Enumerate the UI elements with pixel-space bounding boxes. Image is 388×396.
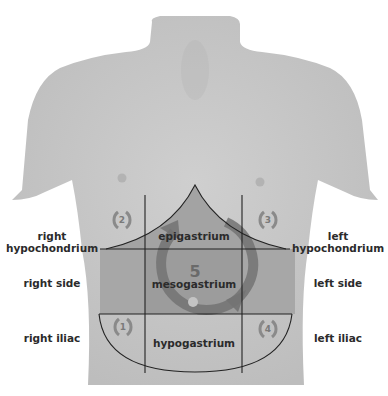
right-nipple: [118, 174, 127, 183]
right-side-label: right side: [4, 277, 100, 289]
mesogastrium-label: mesogastrium: [152, 278, 237, 290]
abdominal-regions-diagram: 2 3 1 4 5 epigastrium mesogastrium hypog…: [0, 0, 388, 396]
right-iliac-label: right iliac: [4, 332, 100, 344]
navel: [188, 297, 198, 307]
right-hypochondrium-label: right hypochondrium: [4, 230, 100, 254]
sequence-number-3: 3: [265, 215, 271, 225]
sequence-number-4: 4: [265, 324, 271, 334]
left-side-label: left side: [290, 277, 386, 289]
sequence-number-2: 2: [119, 215, 125, 225]
hypogastrium-label: hypogastrium: [153, 337, 235, 349]
sequence-number-1: 1: [120, 322, 126, 332]
left-nipple: [256, 178, 265, 187]
left-iliac-label: left iliac: [290, 332, 386, 344]
left-hypochondrium-label: left hypochondrium: [290, 230, 386, 254]
epigastrium-label: epigastrium: [158, 230, 229, 242]
